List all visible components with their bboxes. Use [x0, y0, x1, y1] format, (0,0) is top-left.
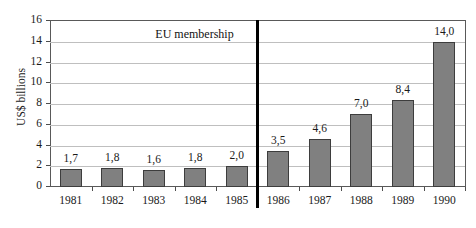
x-axis-tick-mark	[175, 187, 176, 191]
bar-value-label: 1,8	[92, 152, 132, 164]
y-axis-tick-label: 10	[20, 76, 42, 88]
eu-membership-label: EU membership	[140, 28, 250, 41]
bar	[143, 170, 165, 187]
bar-value-label: 3,5	[258, 135, 298, 147]
eu-membership-divider	[256, 20, 259, 208]
bar	[309, 139, 331, 187]
x-axis-tick-label: 1981	[48, 194, 94, 206]
bar	[226, 166, 248, 187]
bar	[60, 169, 82, 187]
x-axis-tick-label: 1985	[214, 194, 260, 206]
bar	[101, 168, 123, 187]
x-axis-tick-mark	[382, 187, 383, 191]
bar	[267, 151, 289, 187]
bar-value-label: 2,0	[217, 150, 257, 162]
bar	[392, 100, 414, 187]
y-axis-tick-label: 2	[20, 159, 42, 171]
x-axis-tick-mark	[92, 187, 93, 191]
y-axis-tick-label: 12	[20, 56, 42, 68]
bar-value-label: 4,6	[300, 123, 340, 135]
x-axis-tick-mark	[299, 187, 300, 191]
y-axis-tick-label: 8	[20, 97, 42, 109]
bar-value-label: 1,6	[134, 154, 174, 166]
y-axis-tick-label: 0	[20, 180, 42, 192]
y-axis-tick-label: 14	[20, 35, 42, 47]
y-axis-tick-label: 16	[20, 14, 42, 26]
bar-value-label: 1,7	[51, 153, 91, 165]
bar-value-label: 14,0	[424, 26, 464, 38]
bar-chart-figure: US$ billions 0246810121416 1,71,81,61,82…	[0, 0, 476, 228]
x-axis-tick-mark	[424, 187, 425, 191]
x-axis-tick-mark	[133, 187, 134, 191]
bar-value-label: 1,8	[175, 152, 215, 164]
x-axis-tick-label: 1984	[172, 194, 218, 206]
x-axis-tick-label: 1982	[89, 194, 135, 206]
x-axis-tick-label: 1989	[380, 194, 426, 206]
bar	[350, 114, 372, 187]
bar	[184, 168, 206, 187]
x-axis-tick-label: 1990	[421, 194, 467, 206]
x-axis-tick-mark	[216, 187, 217, 191]
y-axis-tick-label: 6	[20, 118, 42, 130]
x-axis-tick-mark	[341, 187, 342, 191]
x-axis-tick-label: 1988	[338, 194, 384, 206]
x-axis-tick-label: 1986	[255, 194, 301, 206]
x-axis-tick-label: 1983	[131, 194, 177, 206]
bar-value-label: 7,0	[341, 98, 381, 110]
x-axis-tick-mark	[465, 187, 466, 191]
x-axis-tick-label: 1987	[297, 194, 343, 206]
y-axis-tick-label: 4	[20, 139, 42, 151]
bar	[433, 42, 455, 187]
bar-value-label: 8,4	[383, 84, 423, 96]
